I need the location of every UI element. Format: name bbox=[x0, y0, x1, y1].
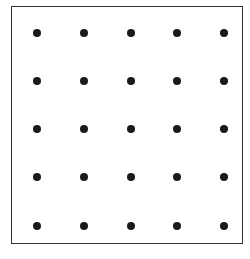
grid-dot bbox=[173, 173, 181, 181]
grid-dot bbox=[220, 77, 228, 85]
grid-dot bbox=[80, 173, 88, 181]
grid-dot bbox=[220, 29, 228, 37]
dot-grid-frame bbox=[11, 6, 243, 244]
grid-dot bbox=[127, 173, 135, 181]
grid-dot bbox=[80, 222, 88, 230]
grid-dot bbox=[80, 29, 88, 37]
grid-dot bbox=[127, 29, 135, 37]
grid-dot bbox=[173, 222, 181, 230]
grid-dot bbox=[80, 125, 88, 133]
grid-dot bbox=[220, 222, 228, 230]
grid-dot bbox=[173, 125, 181, 133]
grid-dot bbox=[127, 222, 135, 230]
grid-dot bbox=[220, 173, 228, 181]
grid-dot bbox=[127, 77, 135, 85]
grid-dot bbox=[173, 29, 181, 37]
grid-dot bbox=[80, 77, 88, 85]
grid-dot bbox=[33, 173, 41, 181]
grid-dot bbox=[173, 77, 181, 85]
grid-dot bbox=[33, 29, 41, 37]
grid-dot bbox=[33, 77, 41, 85]
grid-dot bbox=[220, 125, 228, 133]
grid-dot bbox=[33, 125, 41, 133]
grid-dot bbox=[33, 222, 41, 230]
grid-dot bbox=[127, 125, 135, 133]
